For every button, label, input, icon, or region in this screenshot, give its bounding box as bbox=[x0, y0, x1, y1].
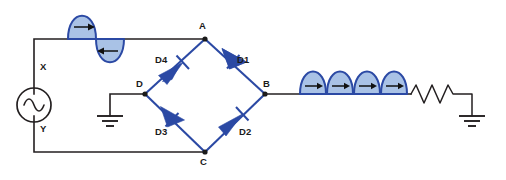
diode-D3 bbox=[145, 94, 205, 152]
diode-label-D3: D3 bbox=[155, 127, 167, 137]
ac-source-sine-icon bbox=[24, 99, 44, 111]
output-wave-lobe-4 bbox=[381, 72, 407, 95]
ground-symbol-load bbox=[459, 116, 485, 126]
output-wave-lobe-1 bbox=[300, 72, 326, 95]
node-label-B: B bbox=[263, 79, 270, 89]
source-terminal-label-x: X bbox=[40, 62, 46, 72]
output-wave-lobe-2 bbox=[327, 72, 353, 95]
diode-label-D2: D2 bbox=[239, 127, 251, 137]
wire-D-to-ground bbox=[110, 94, 145, 116]
node-label-A: A bbox=[199, 21, 206, 31]
diode-label-D4: D4 bbox=[155, 55, 167, 65]
source-terminal-label-y: Y bbox=[40, 124, 46, 134]
output-rectified-waveform bbox=[300, 72, 407, 95]
diode-D4 bbox=[145, 39, 205, 94]
node-label-D: D bbox=[136, 79, 143, 89]
node-dot-D bbox=[142, 91, 147, 96]
node-dot-C bbox=[202, 149, 207, 154]
node-label-C: C bbox=[200, 157, 207, 167]
diode-D2 bbox=[205, 94, 265, 152]
diode-D1 bbox=[205, 39, 265, 94]
load-resistor-symbol bbox=[411, 85, 472, 116]
ground-symbol-d bbox=[97, 116, 123, 126]
diode-label-D1: D1 bbox=[237, 55, 249, 65]
circuit-svg bbox=[0, 0, 506, 180]
output-wave-lobe-3 bbox=[354, 72, 380, 95]
circuit-diagram: A B C D D1 D2 D3 D4 X Y bbox=[0, 0, 506, 180]
input-ac-waveform bbox=[68, 16, 124, 63]
node-dot-A bbox=[202, 36, 207, 41]
